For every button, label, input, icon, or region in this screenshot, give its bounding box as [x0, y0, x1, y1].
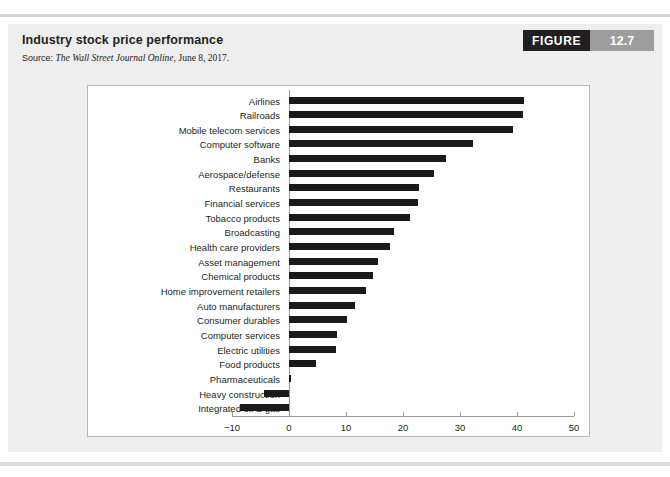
x-axis-tick — [574, 412, 575, 416]
figure-source: Source: The Wall Street Journal Online, … — [22, 53, 229, 63]
chart-inner: AirlinesRailroadsMobile telecom services… — [88, 86, 589, 436]
bar — [289, 258, 378, 265]
x-axis-tick-label: 0 — [286, 422, 291, 433]
source-date: June 8, 2017. — [178, 53, 229, 63]
bar — [289, 375, 291, 382]
source-publication: The Wall Street Journal Online, — [56, 53, 176, 63]
bar — [289, 126, 513, 133]
bar — [289, 155, 446, 162]
page-background: Industry stock price performance Source:… — [0, 0, 670, 477]
x-axis-tick-label: 50 — [569, 422, 580, 433]
source-label: Source: — [22, 53, 53, 63]
x-axis-tick-label: −10 — [224, 422, 240, 433]
x-axis-tick-label: 20 — [398, 422, 409, 433]
bar — [289, 111, 523, 118]
bar — [289, 287, 366, 294]
bar — [289, 97, 524, 104]
bar — [289, 346, 336, 353]
x-axis-line — [232, 416, 574, 417]
bar — [289, 272, 373, 279]
bar — [240, 404, 289, 411]
x-axis-tick — [346, 412, 347, 416]
bar — [289, 184, 419, 191]
bar — [289, 228, 394, 235]
bar — [289, 214, 410, 221]
x-axis-tick-label: 10 — [341, 422, 352, 433]
figure-title: Industry stock price performance — [22, 33, 223, 47]
x-axis-tick — [403, 412, 404, 416]
bar-series — [88, 86, 589, 436]
figure-badge-number: 12.7 — [590, 30, 654, 51]
x-axis-tick — [517, 412, 518, 416]
x-axis-tick — [232, 412, 233, 416]
bar — [289, 243, 390, 250]
x-axis-tick-label: 40 — [512, 422, 523, 433]
bar — [289, 140, 473, 147]
figure-card: Industry stock price performance Source:… — [8, 24, 662, 452]
bar — [289, 170, 434, 177]
bar — [289, 199, 418, 206]
top-divider — [0, 14, 670, 17]
x-axis-tick-label: 30 — [455, 422, 466, 433]
bottom-divider — [0, 462, 670, 466]
figure-badge-word: FIGURE — [523, 30, 590, 51]
chart-plot-area: AirlinesRailroadsMobile telecom services… — [87, 85, 590, 437]
bar — [289, 302, 355, 309]
bar — [289, 331, 337, 338]
figure-badge: FIGURE 12.7 — [523, 30, 654, 51]
x-axis-tick — [460, 412, 461, 416]
bar — [289, 360, 316, 367]
bar — [289, 316, 347, 323]
bar — [264, 390, 289, 397]
